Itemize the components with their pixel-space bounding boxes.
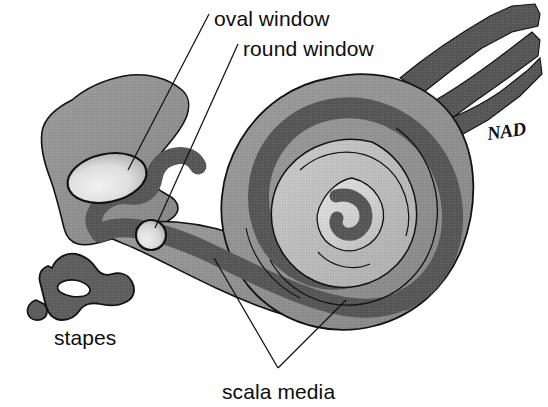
label-scala-media: scala media: [222, 380, 335, 403]
anatomical-figure: oval window round window stapes scala me…: [0, 0, 548, 407]
label-round-window: round window: [243, 37, 375, 60]
label-stapes: stapes: [54, 326, 116, 349]
label-oval-window: oval window: [214, 7, 330, 30]
stapes: [27, 254, 134, 320]
round-window: [136, 220, 166, 250]
artist-signature: NAD: [485, 118, 528, 144]
cochlea-diagram-svg: oval window round window stapes scala me…: [0, 0, 548, 407]
